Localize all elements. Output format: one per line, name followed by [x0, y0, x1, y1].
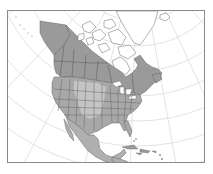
north-america-map [8, 11, 205, 163]
central-america [112, 157, 132, 163]
map-frame [7, 10, 205, 163]
caribbean-islands [122, 138, 163, 159]
aleutian-islands [15, 16, 32, 36]
